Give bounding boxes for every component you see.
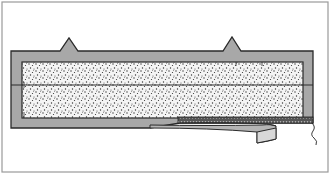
panel-cross-section-diagram — [0, 0, 330, 174]
diagram-figure — [0, 0, 330, 174]
hatched-band — [178, 117, 313, 123]
filler-core — [22, 62, 303, 118]
